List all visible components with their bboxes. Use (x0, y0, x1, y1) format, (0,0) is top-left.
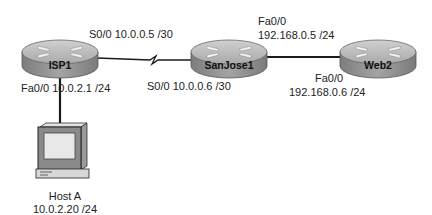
isp1-fa00-label: Fa0/0 10.0.2.1 /24 (21, 82, 110, 95)
network-diagram: ISP1 SanJose1 Web2 S0/0 10.0.0.5 /30 Fa0… (0, 0, 432, 215)
router-isp1-name: ISP1 (49, 59, 72, 71)
router-sanjose1: SanJose1 (191, 40, 267, 78)
diagram-canvas: ISP1 SanJose1 Web2 (0, 0, 432, 215)
router-sanjose1-name: SanJose1 (204, 59, 253, 71)
web2-fa00-ip: 192.168.0.6 /24 (289, 86, 365, 99)
sanjose1-fa00-interface: Fa0/0 (258, 15, 286, 28)
router-web2: Web2 (340, 40, 416, 78)
sanjose1-s00-label: S0/0 10.0.0.6 /30 (147, 80, 231, 93)
router-web2-name: Web2 (364, 59, 392, 71)
link-isp1-sanjose1-serial (97, 56, 197, 64)
hosta-ip-label: 10.0.2.20 /24 (20, 203, 110, 215)
web2-fa00-interface: Fa0/0 (315, 72, 343, 85)
hosta-name-label: Host A (30, 190, 100, 203)
sanjose1-fa00-ip: 192.168.0.5 /24 (258, 29, 334, 42)
isp1-s00-label: S0/0 10.0.0.5 /30 (89, 28, 173, 41)
pc-icon (36, 123, 89, 178)
router-isp1: ISP1 (22, 40, 98, 78)
